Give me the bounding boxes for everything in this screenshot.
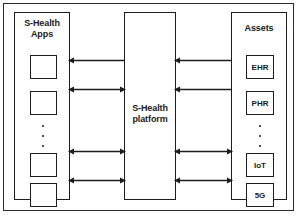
apps-ellipsis-dot-1 [42,125,44,127]
apps-ellipsis-dot-3 [42,145,44,147]
platform-label-line-1: S-Health [125,103,175,114]
app-box-3[interactable] [30,153,57,177]
asset-box-ehr[interactable]: EHR [246,55,274,79]
connector-right-1 [174,56,233,65]
assets-ellipsis-dot-2 [259,135,261,137]
asset-box-iot[interactable]: IoT [246,153,274,177]
asset-box-phr[interactable]: PHR [246,91,274,115]
connector-right-2 [174,85,233,94]
app-box-1[interactable] [30,55,57,79]
app-box-2[interactable] [30,91,57,115]
s-health-apps-title: S-Health Apps [15,18,69,40]
assets-panel: Assets EHR PHR IoT 5G [231,12,287,200]
apps-title-line-1: S-Health [15,18,69,29]
assets-ellipsis-dot-1 [259,125,261,127]
connector-left-4 [68,176,126,185]
s-health-apps-panel: S-Health Apps [14,12,70,200]
assets-title: Assets [232,23,286,34]
apps-ellipsis-dot-2 [42,135,44,137]
diagram-canvas: S-Health Apps S-Health platform Assets E… [0,0,299,217]
platform-label-line-2: platform [125,114,175,125]
app-box-4[interactable] [30,183,57,207]
s-health-platform-label: S-Health platform [125,103,175,125]
connector-right-4 [174,176,233,185]
assets-ellipsis-dot-3 [259,145,261,147]
connector-left-1 [68,56,126,65]
apps-ellipsis [37,125,49,147]
connector-left-2 [68,85,126,94]
assets-ellipsis [254,125,266,147]
s-health-platform-panel: S-Health platform [124,12,176,200]
connector-right-3 [174,147,233,156]
connector-left-3 [68,147,126,156]
apps-title-line-2: Apps [15,29,69,40]
asset-box-5g[interactable]: 5G [246,183,274,207]
